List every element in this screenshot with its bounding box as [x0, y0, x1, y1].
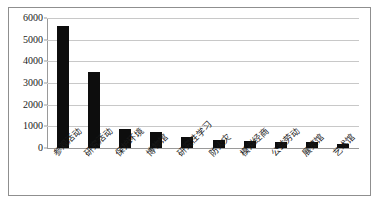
y-axis-tick-label: 5000 — [23, 35, 43, 45]
y-tick-mark-5000 — [44, 39, 47, 40]
y-tick-mark-4000 — [44, 61, 47, 62]
y-axis-tick-label: 3000 — [23, 78, 43, 88]
y-tick-mark-6000 — [44, 18, 47, 19]
gridline-4000 — [47, 61, 359, 62]
bar — [57, 26, 69, 148]
y-axis-tick-label: 2000 — [23, 100, 43, 110]
y-tick-mark-1000 — [44, 126, 47, 127]
y-axis-tick-label: 1000 — [23, 121, 43, 131]
y-tick-mark-3000 — [44, 83, 47, 84]
gridline-5000 — [47, 40, 359, 41]
y-axis-tick-label: 4000 — [23, 56, 43, 66]
y-tick-mark-2000 — [44, 104, 47, 105]
y-axis-tick-label: 6000 — [23, 13, 43, 23]
gridline-6000 — [47, 18, 359, 19]
y-tick-mark-0 — [44, 148, 47, 149]
bar-chart-figure: 0100020003000400050006000 参观活动研究活动保护环境博物… — [8, 7, 371, 196]
y-axis-tick-label: 0 — [38, 143, 43, 153]
